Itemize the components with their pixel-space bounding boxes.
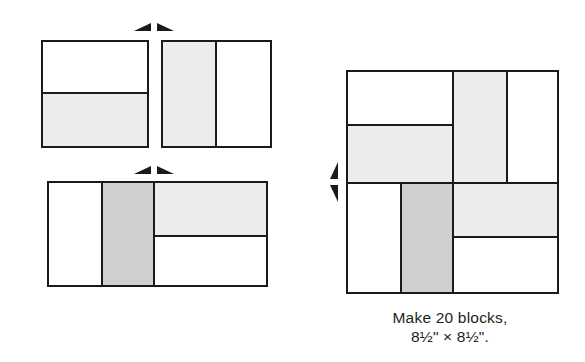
two-patch-unit [41,40,149,144]
block-bottom-left-white-patch [346,182,402,294]
block-mid-left-light-patch [346,124,454,184]
block-caption: Make 20 blocks, 8½" × 8½". [350,308,550,346]
arrow-join-rows [327,160,341,204]
caption-line-2: 8½" × 8½". [350,327,550,346]
two-patch-bottom-patch [41,92,149,148]
partial-right-bottom-white-patch [153,235,268,287]
partial-left-white-patch [47,181,103,287]
rail-left-patch [161,40,217,148]
finished-block [346,70,553,288]
rail-unit [161,40,268,144]
arrow-join-top-units [132,20,176,34]
rail-right-patch [215,40,272,148]
block-right-mid-light-patch [452,182,559,238]
arrow-join-bottom-units [132,163,176,177]
partial-center-dark-patch [101,181,155,287]
block-top-left-white-patch [346,70,454,126]
partial-right-top-light-patch [153,181,268,237]
block-top-center-light-patch [452,70,508,184]
block-bottom-right-white-patch [452,236,559,294]
block-center-dark-patch [400,182,454,294]
partial-block-unit [47,181,262,283]
diagram-canvas: Make 20 blocks, 8½" × 8½". [0,0,585,362]
block-top-right-white-patch [506,70,559,184]
caption-line-1: Make 20 blocks, [350,308,550,327]
two-patch-top-patch [41,40,149,94]
